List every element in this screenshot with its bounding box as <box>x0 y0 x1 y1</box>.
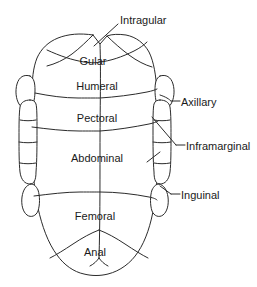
left-inguinal-lobe-shape <box>22 184 40 216</box>
label-humeral: Humeral <box>76 80 118 92</box>
plastron-diagram: Intragular Gular Humeral Pectoral Abdomi… <box>0 0 257 287</box>
label-intragular: Intragular <box>120 14 166 26</box>
label-gular: Gular <box>80 55 107 67</box>
label-abdominal: Abdominal <box>71 152 123 164</box>
label-inframarginal: Inframarginal <box>186 140 250 152</box>
label-anal: Anal <box>84 246 106 258</box>
label-axillary: Axillary <box>181 96 216 108</box>
right-inguinal-lobe-shape <box>151 184 169 216</box>
label-pectoral: Pectoral <box>77 112 117 124</box>
label-femoral: Femoral <box>75 210 115 222</box>
label-inguinal: Inguinal <box>181 189 220 201</box>
